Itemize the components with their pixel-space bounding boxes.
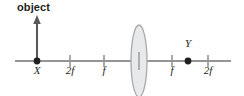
object-arrow [33,15,41,61]
object-label: object [17,1,50,13]
point-label-x: X [34,64,41,76]
tick-label-f-right: f [170,64,173,76]
tick-label-2f-right: 2f [204,64,213,76]
point-label-y: Y [185,37,191,49]
optics-ray-diagram [0,0,244,96]
point-marker-y [185,58,192,65]
tick-label-2f-left: 2f [66,64,75,76]
tick-label-f-left: f [102,64,105,76]
